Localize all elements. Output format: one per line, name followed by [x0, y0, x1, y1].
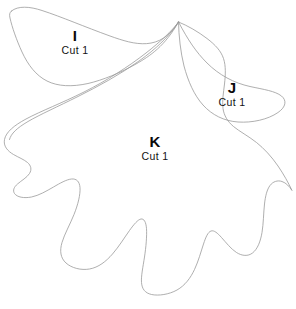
piece-cut-instruction-k: Cut 1 [132, 151, 178, 162]
piece-label-i: I Cut 1 [52, 28, 98, 56]
piece-cut-instruction-i: Cut 1 [52, 45, 98, 56]
piece-letter-i: I [52, 28, 98, 44]
piece-label-k: K Cut 1 [132, 134, 178, 162]
piece-cut-instruction-j: Cut 1 [209, 97, 255, 108]
piece-letter-j: J [209, 80, 255, 96]
piece-letter-k: K [132, 134, 178, 150]
pattern-sheet: I Cut 1 J Cut 1 K Cut 1 [0, 0, 296, 309]
piece-label-j: J Cut 1 [209, 80, 255, 108]
